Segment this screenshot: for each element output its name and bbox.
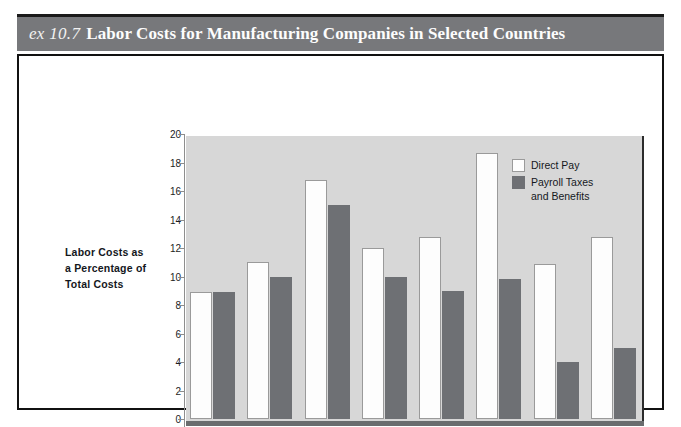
exhibit-title: Labor Costs for Manufacturing Companies …: [86, 24, 565, 44]
y-axis-tick-label: 4: [147, 357, 181, 368]
bar-direct-pay: [476, 153, 498, 419]
bar-group: [190, 134, 235, 419]
legend-label-line: and Benefits: [531, 189, 593, 203]
y-axis-tick-mark: [178, 191, 185, 192]
y-axis-line: [184, 134, 185, 427]
bar-direct-pay: [419, 237, 441, 419]
bar-group: [362, 134, 407, 419]
y-axis-tick-mark: [178, 220, 185, 221]
legend-item: Payroll Taxesand Benefits: [512, 175, 593, 203]
legend-label: Direct Pay: [531, 158, 579, 172]
bar-payroll-taxes: [442, 291, 464, 419]
legend-swatch-payroll-taxes: [512, 176, 525, 189]
bar-direct-pay: [247, 262, 269, 419]
exhibit-number: ex 10.7: [29, 24, 80, 44]
y-axis-tick-label: 2: [147, 385, 181, 396]
bar-direct-pay: [362, 248, 384, 419]
x-axis-baseline: [186, 421, 644, 426]
y-axis-tick-label: 14: [147, 214, 181, 225]
bar-group: [591, 134, 636, 419]
bar-payroll-taxes: [499, 279, 521, 419]
legend-label: Payroll Taxesand Benefits: [531, 175, 593, 203]
bar-group: [419, 134, 464, 419]
y-axis-tick-label: 10: [147, 271, 181, 282]
y-axis-tick-label: 20: [147, 129, 181, 140]
y-axis-tick-label: 12: [147, 243, 181, 254]
y-axis-tick-label: 18: [147, 157, 181, 168]
legend-label-line: Payroll Taxes: [531, 175, 593, 189]
y-axis-tick-mark: [178, 248, 185, 249]
chart-legend: Direct PayPayroll Taxesand Benefits: [512, 158, 593, 206]
exhibit-title-bar: ex 10.7 Labor Costs for Manufacturing Co…: [17, 17, 664, 51]
bar-direct-pay: [534, 264, 556, 419]
y-axis-tick-label: 16: [147, 186, 181, 197]
bar-payroll-taxes: [557, 362, 579, 419]
bar-direct-pay: [190, 292, 212, 419]
y-axis-tick-mark: [178, 277, 185, 278]
y-axis-tick-mark: [178, 305, 185, 306]
bar-payroll-taxes: [270, 277, 292, 420]
y-axis-tick-label: 0: [147, 414, 181, 425]
legend-swatch-direct-pay: [512, 159, 525, 172]
bar-payroll-taxes: [614, 348, 636, 419]
bar-group: [247, 134, 292, 419]
y-axis-tick-mark: [178, 134, 185, 135]
y-axis-tick-mark: [178, 334, 185, 335]
bar-payroll-taxes: [328, 205, 350, 419]
bar-payroll-taxes: [385, 277, 407, 420]
y-axis-tick-mark: [178, 362, 185, 363]
bar-group: [305, 134, 350, 419]
y-axis-tick-label: 8: [147, 300, 181, 311]
y-axis-tick-label: 6: [147, 328, 181, 339]
y-axis-tick-mark: [178, 163, 185, 164]
legend-label-line: Direct Pay: [531, 158, 579, 172]
y-axis-tick-mark: [178, 391, 185, 392]
exhibit-figure: ex 10.7 Labor Costs for Manufacturing Co…: [0, 0, 681, 427]
chart-frame: Labor Costs asa Percentage ofTotal Costs…: [17, 54, 664, 410]
bar-direct-pay: [305, 180, 327, 419]
bar-direct-pay: [591, 237, 613, 419]
y-axis-tick-mark: [178, 419, 185, 420]
bar-payroll-taxes: [213, 292, 235, 419]
legend-item: Direct Pay: [512, 158, 593, 172]
